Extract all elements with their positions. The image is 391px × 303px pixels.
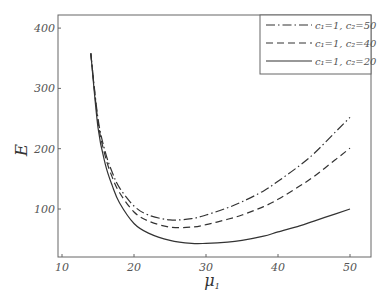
x-tick-label: 20: [126, 261, 141, 274]
x-tick-label: 10: [55, 261, 69, 274]
y-axis-label: E: [11, 143, 31, 157]
y-tick-label: 200: [33, 143, 55, 156]
legend-label: c₁=1, c₂=20: [315, 56, 377, 67]
series-line-solid: [91, 53, 350, 243]
series-line-dashdot: [91, 53, 350, 220]
y-tick-label: 400: [33, 22, 55, 35]
x-tick-label: 50: [343, 261, 357, 274]
y-axis-ticks: 100200300400: [33, 22, 61, 216]
data-series: [91, 53, 350, 243]
legend-label: c₁=1, c₂=40: [315, 38, 377, 49]
x-tick-label: 40: [270, 261, 285, 274]
x-axis-label: μ1: [204, 271, 220, 291]
line-chart: 100200300400 1020304050 E μ1 c₁=1, c₂=50…: [0, 0, 391, 303]
legend-label: c₁=1, c₂=50: [315, 20, 377, 31]
legend: c₁=1, c₂=50c₁=1, c₂=40c₁=1, c₂=20: [260, 15, 377, 74]
y-tick-label: 300: [34, 82, 55, 95]
y-tick-label: 100: [34, 203, 55, 216]
